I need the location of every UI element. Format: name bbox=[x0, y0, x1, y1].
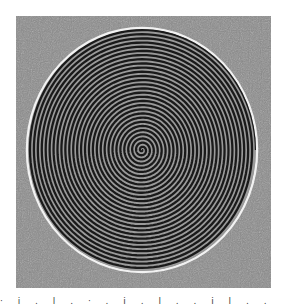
spiral-image bbox=[16, 16, 271, 288]
spiral-graphic bbox=[16, 16, 271, 288]
figure-caption: · i . l . · . i . l . . i l . . . . i l … bbox=[0, 296, 281, 306]
